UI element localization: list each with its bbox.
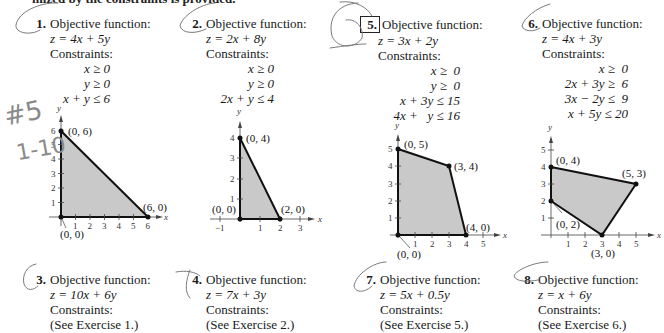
objective-function: z = 5x + 0.5y (380, 287, 481, 302)
exercise-3: 3.Objective function: z = 10x + 6y Const… (32, 272, 151, 332)
y-tick: 5 (541, 145, 546, 155)
y-tick: 2 (541, 196, 546, 206)
y-tick: 4 (541, 162, 546, 172)
x-tick: 1 (566, 239, 571, 249)
exercise-7: 7.Objective function: z = 5x + 0.5y Cons… (362, 272, 481, 332)
exercise-number: 3. (32, 272, 46, 287)
see-exercise-reference: (See Exercise 5.) (380, 317, 481, 332)
see-exercise-reference: (See Exercise 6.) (538, 317, 639, 332)
vertex-label: (0, 2) (556, 218, 580, 231)
y-tick: 1 (541, 213, 546, 223)
exercise-number: 4. (188, 272, 202, 287)
exercise-heading: Objective function: (538, 272, 639, 287)
exercise-4: 4.Objective function: z = 7x + 3y Constr… (188, 272, 307, 332)
exercise-heading: Objective function: (50, 272, 151, 287)
vertex-label: (0, 4) (556, 154, 580, 167)
objective-function: z = 7x + 3y (206, 287, 307, 302)
constraints-label: Constraints: (538, 302, 639, 317)
exercise-8: 8.Objective function: z = x + 6y Constra… (520, 272, 639, 332)
constraints-label: Constraints: (380, 302, 481, 317)
exercise-number: 8. (520, 272, 534, 287)
objective-function: z = 10x + 6y (50, 287, 151, 302)
x-tick: 5 (634, 239, 639, 249)
see-exercise-reference: (See Exercise 2.) (206, 317, 307, 332)
constraints-label: Constraints: (206, 302, 307, 317)
y-tick: 3 (541, 179, 546, 189)
x-tick: 4 (617, 239, 622, 249)
constraints-label: Constraints: (50, 302, 151, 317)
y-axis-label: y (547, 122, 552, 132)
exercise-number: 7. (362, 272, 376, 287)
x-tick: 2 (583, 239, 588, 249)
x-axis-label: x (656, 230, 661, 240)
vertex-label: (5, 3) (622, 167, 646, 180)
exercise-heading: Objective function: (380, 272, 481, 287)
exercise-heading: Objective function: (206, 272, 307, 287)
objective-function: z = x + 6y (538, 287, 639, 302)
see-exercise-reference: (See Exercise 1.) (50, 317, 151, 332)
vertex-label: (3, 0) (591, 247, 615, 260)
